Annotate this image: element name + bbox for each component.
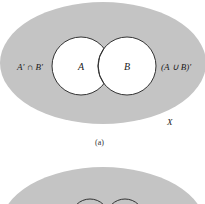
caption-a: (a) <box>95 138 104 147</box>
union-complement-label: (A ∪ B)′ <box>161 62 192 72</box>
universe-label: X <box>166 117 173 127</box>
figure-a: A B A′ ∩ B′ (A ∪ B)′ X (a) <box>0 2 205 147</box>
figure-b <box>0 167 205 204</box>
universe-ellipse-b <box>0 167 205 204</box>
set-a-label: A <box>77 61 85 72</box>
venn-diagrams: A B A′ ∩ B′ (A ∪ B)′ X (a) <box>0 0 205 204</box>
set-b-label: B <box>124 61 130 72</box>
complement-intersection-label: A′ ∩ B′ <box>16 62 44 72</box>
